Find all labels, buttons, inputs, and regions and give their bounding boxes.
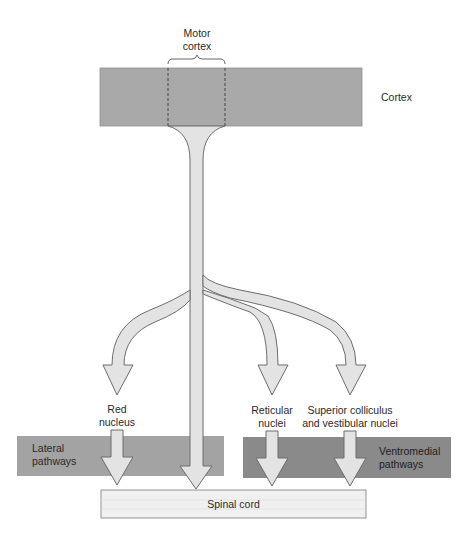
motor-cortex-brace <box>168 55 225 64</box>
red-nucleus-label: Red nucleus <box>92 403 142 429</box>
branch-arrow-superior-colliculus <box>203 275 366 395</box>
superior-colliculus-label: Superior colliculus and vestibular nucle… <box>300 404 400 430</box>
lateral-pathways-label: Lateral pathways <box>32 442 76 468</box>
ventromedial-pathways-label: Ventromedial pathways <box>379 445 440 471</box>
motor-cortex-label: Motor cortex <box>172 27 222 53</box>
branch-arrow-red-nucleus <box>103 290 190 395</box>
reticular-nuclei-label: Reticular nuclei <box>247 404 297 430</box>
cortex-label: Cortex <box>381 91 412 104</box>
cortex-band <box>100 68 362 126</box>
spinal-cord-label: Spinal cord <box>101 498 366 511</box>
